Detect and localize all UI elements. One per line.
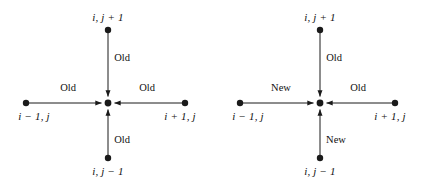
stencil-figure: i, j + 1 i, j − 1 i − 1, j i + 1, j Old …: [0, 0, 429, 188]
node-dot-north: [317, 27, 323, 33]
node-dot-east: [182, 100, 188, 106]
node-dot-center: [105, 100, 112, 107]
node-dot-east: [392, 100, 398, 106]
edge-label-east: Old: [139, 82, 155, 93]
node-dot-south: [317, 155, 323, 161]
node-label-north: i, j + 1: [304, 11, 336, 23]
node-dot-west: [237, 100, 243, 106]
node-label-west: i − 1, j: [18, 110, 50, 122]
node-label-west: i − 1, j: [232, 110, 264, 122]
node-dot-south: [105, 155, 111, 161]
node-dot-center: [317, 100, 324, 107]
node-label-south: i, j − 1: [92, 165, 124, 177]
edge-label-south: New: [326, 134, 346, 145]
edge-label-south: Old: [114, 134, 130, 145]
edge-label-west: New: [271, 82, 291, 93]
node-label-north: i, j + 1: [92, 11, 124, 23]
edge-label-west: Old: [60, 82, 76, 93]
gauss-seidel-stencil-group: [237, 27, 398, 161]
node-label-east: i + 1, j: [374, 110, 406, 122]
node-dot-north: [105, 27, 111, 33]
jacobi-stencil-group: [23, 27, 188, 161]
edge-label-east: Old: [350, 82, 366, 93]
edge-label-north: Old: [326, 52, 342, 63]
node-dot-west: [23, 100, 29, 106]
node-label-east: i + 1, j: [164, 110, 196, 122]
node-label-south: i, j − 1: [304, 165, 336, 177]
edge-label-north: Old: [114, 52, 130, 63]
stencil-diagram-canvas: [0, 0, 429, 188]
